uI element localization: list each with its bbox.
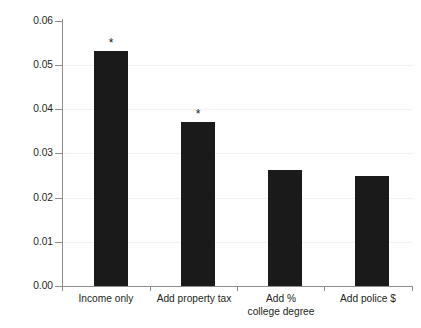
x-axis-label-line: college degree	[226, 306, 336, 319]
significance-asterisk-income-only: *	[94, 37, 128, 49]
x-axis-label-add-police-spending: Add police $	[313, 293, 421, 306]
y-tick	[55, 242, 63, 243]
bar-add-police-spending	[355, 176, 389, 286]
x-axis-label-line: Add police $	[313, 293, 421, 306]
y-tick	[55, 198, 63, 199]
y-tick-label: 0.00	[1, 280, 53, 291]
y-tick	[55, 109, 63, 110]
y-tick	[55, 65, 63, 66]
y-tick-label: 0.02	[1, 192, 53, 203]
plot-area: * *	[63, 21, 413, 286]
bar-income-only	[94, 51, 128, 286]
significance-asterisk-add-property-tax: *	[181, 108, 215, 120]
y-tick-label: 0.03	[1, 147, 53, 158]
x-tick	[62, 286, 63, 291]
bar-chart-figure: Implied effect of jurisdiction-level med…	[0, 0, 421, 328]
y-tick	[55, 153, 63, 154]
x-tick	[412, 286, 413, 291]
y-tick-label: 0.04	[1, 103, 53, 114]
y-tick-label: 0.06	[1, 15, 53, 26]
bar-add-college-degree	[268, 170, 302, 286]
bar-add-property-tax	[181, 122, 215, 286]
x-tick	[324, 286, 325, 291]
x-tick	[150, 286, 151, 291]
y-tick-label: 0.01	[1, 236, 53, 247]
x-tick	[237, 286, 238, 291]
y-tick	[55, 21, 63, 22]
y-tick-label: 0.05	[1, 59, 53, 70]
